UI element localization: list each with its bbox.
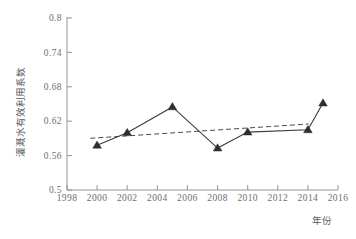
data-point-marker bbox=[243, 128, 252, 135]
x-tick-label: 2012 bbox=[267, 193, 288, 203]
x-tick-label: 2000 bbox=[87, 193, 108, 203]
x-tick-label: 2010 bbox=[237, 193, 258, 203]
y-tick-label: 0.8 bbox=[49, 13, 62, 23]
y-tick-label: 0.68 bbox=[44, 82, 62, 92]
data-point-marker bbox=[319, 99, 328, 106]
y-tick-label: 0.74 bbox=[44, 48, 62, 58]
y-tick-marks bbox=[67, 18, 72, 190]
y-tick-label: 0.62 bbox=[44, 116, 62, 126]
chart-container: 0.5 0.56 0.62 0.68 0.74 0.8 1998 2000 20… bbox=[0, 0, 356, 239]
data-point-marker bbox=[168, 103, 177, 110]
x-tick-label: 1998 bbox=[57, 193, 78, 203]
y-tick-label: 0.56 bbox=[44, 151, 62, 161]
line-chart: 0.5 0.56 0.62 0.68 0.74 0.8 1998 2000 20… bbox=[0, 0, 356, 239]
x-tick-label: 2014 bbox=[298, 193, 319, 203]
x-tick-label: 2006 bbox=[177, 193, 198, 203]
x-tick-label: 2016 bbox=[328, 193, 349, 203]
x-axis-title: 年份 bbox=[312, 215, 332, 226]
axis-frame bbox=[67, 17, 338, 190]
data-point-marker bbox=[123, 128, 132, 135]
x-tick-marks bbox=[67, 185, 338, 190]
y-axis-title: 灌溉水有效利用系数 bbox=[15, 67, 26, 157]
x-tick-label: 2004 bbox=[147, 193, 168, 203]
x-tick-label: 2002 bbox=[117, 193, 138, 203]
data-point-marker bbox=[304, 126, 313, 133]
x-tick-label: 2008 bbox=[207, 193, 228, 203]
y-axis-tick-labels: 0.5 0.56 0.62 0.68 0.74 0.8 bbox=[44, 13, 62, 195]
data-series-line bbox=[97, 103, 323, 148]
x-axis-tick-labels: 1998 2000 2002 2004 2006 2008 2010 2012 … bbox=[57, 193, 349, 203]
